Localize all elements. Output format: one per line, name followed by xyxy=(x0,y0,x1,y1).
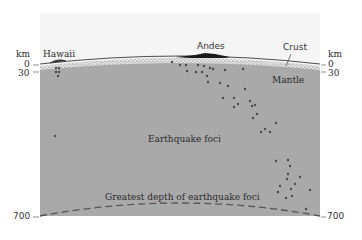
right-axis-tick-30: 30 xyxy=(328,69,339,78)
mantle-label: Mantle xyxy=(272,76,304,85)
left-axis-tick-30: 30 xyxy=(18,69,29,78)
left-axis-tick-700: 700 xyxy=(13,212,30,221)
andes-label: Andes xyxy=(197,42,225,51)
right-axis-tick-700: 700 xyxy=(327,212,344,221)
right-axis-unit: km xyxy=(328,50,342,59)
left-axis-unit: km xyxy=(16,50,30,59)
hawaii-label: Hawaii xyxy=(43,50,75,59)
earthquake-foci-label: Earthquake foci xyxy=(148,135,221,144)
earthquake-foci-diagram xyxy=(0,0,362,240)
crust-label: Crust xyxy=(283,43,307,52)
greatest-depth-label: Greatest depth of earthquake foci xyxy=(105,193,260,202)
